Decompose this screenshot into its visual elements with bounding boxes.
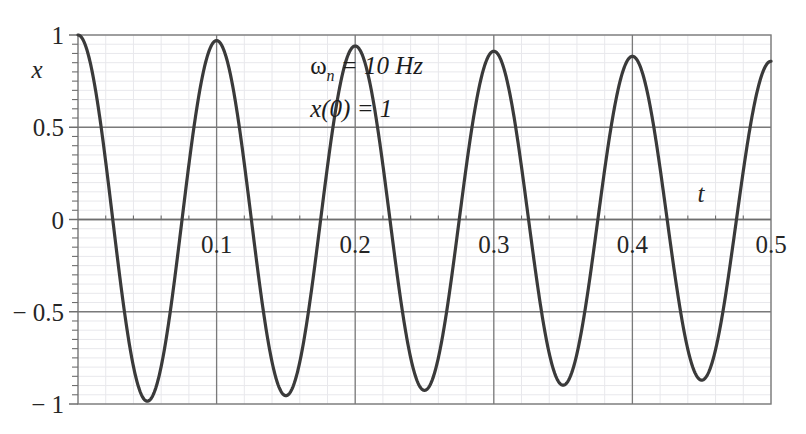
- y-tick-label-1: 0.5: [33, 114, 64, 141]
- y-tick-label-4: − 1: [31, 391, 64, 418]
- x-tick-label-1: 0.1: [201, 231, 232, 258]
- annotation-text: (0) = 1: [321, 95, 392, 123]
- y-tick-label-2: 0: [52, 207, 65, 234]
- y-axis-label: x: [30, 56, 42, 83]
- damped-vibration-chart: 0.10.20.30.40.5 10.50− 0.5− 1 x t ωn = 1…: [0, 0, 806, 434]
- annotation-base: x: [309, 95, 321, 122]
- annotation-subscript: n: [327, 67, 335, 84]
- x-tick-label-2: 0.2: [340, 231, 371, 258]
- chart-canvas: 0.10.20.30.40.5 10.50− 0.5− 1 x t ωn = 1…: [0, 0, 806, 434]
- x-axis-label: t: [698, 180, 706, 207]
- y-tick-label-3: − 0.5: [12, 299, 64, 326]
- annotation-base: ω: [310, 52, 326, 79]
- x-tick-label-4: 0.4: [617, 231, 649, 258]
- x-tick-label-5: 0.5: [755, 231, 786, 258]
- annotation-text: = 10 Hz: [335, 52, 424, 79]
- y-tick-label-0: 1: [52, 22, 65, 49]
- x-tick-label-3: 0.3: [478, 231, 509, 258]
- annotation-x-zero: x(0) = 1: [309, 95, 392, 123]
